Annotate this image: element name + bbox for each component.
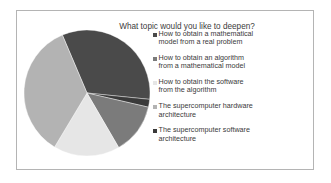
legend-swatch [153, 81, 157, 85]
legend-item-software: How to obtain the softwarefrom the algor… [153, 78, 293, 95]
legend-item-software-architecture: The supercomputer softwarearchitecture [153, 126, 293, 143]
legend-item-hardware-architecture: The supercomputer hardwarearchitecture [153, 102, 293, 119]
chart-legend: How to obtain a mathematicalmodel from a… [153, 30, 293, 150]
legend-swatch [153, 33, 157, 37]
legend-item-math-model: How to obtain a mathematicalmodel from a… [153, 30, 293, 47]
pie-chart [22, 28, 152, 158]
legend-swatch [153, 57, 157, 61]
legend-swatch [153, 129, 157, 133]
legend-item-algorithm: How to obtain an algorithmfrom a mathema… [153, 54, 293, 71]
legend-swatch [153, 105, 157, 109]
